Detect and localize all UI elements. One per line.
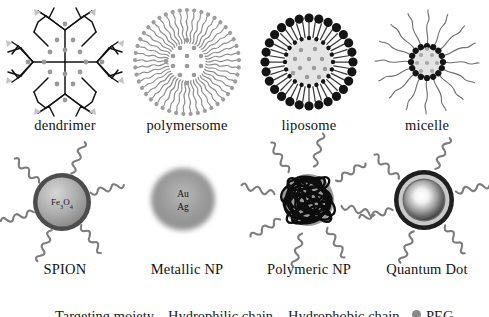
panel-spion: Fe3O4 SPION <box>4 150 126 277</box>
quantum-dot-core <box>404 180 444 220</box>
spion-icon: Fe3O4 <box>4 150 126 262</box>
panel-grid: dendrimer <box>0 0 489 317</box>
panel-dendrimer: dendrimer <box>4 6 126 133</box>
quantum-dot-icon <box>366 150 488 262</box>
polymersome-label: polymersome <box>126 118 248 133</box>
spion-label: SPION <box>4 262 126 277</box>
legend-swatch-peg <box>412 310 421 317</box>
polymeric-np-label: Polymeric NP <box>248 262 370 277</box>
cropped-legend-row: Targeting moiety Hydrophilic chain Hydro… <box>0 309 489 317</box>
dendrimer-icon <box>4 6 126 118</box>
legend-item-hydrophilic-chain: Hydrophilic chain <box>168 309 273 317</box>
legend-item-targeting-moiety: Targeting moiety <box>55 309 154 317</box>
quantum-dot-label: Quantum Dot <box>366 262 488 277</box>
liposome-lumen <box>286 39 332 85</box>
panel-micelle: micelle <box>366 6 488 133</box>
dendrimer-label: dendrimer <box>4 118 126 133</box>
panel-polymeric-np: Polymeric NP <box>248 150 370 277</box>
polymeric-np-icon <box>248 150 370 262</box>
polymersome-cargo-dots <box>164 38 204 86</box>
panel-quantum-dot: Quantum Dot <box>366 150 488 277</box>
metallic-np-label-ag: Ag <box>177 202 189 212</box>
micelle-label: micelle <box>366 118 488 133</box>
metallic-np-label-au: Au <box>177 189 189 199</box>
liposome-label: liposome <box>248 118 370 133</box>
liposome-icon <box>248 6 370 118</box>
panel-polymersome: polymersome <box>126 6 248 133</box>
micelle-icon <box>366 6 488 118</box>
polymersome-icon <box>126 6 248 118</box>
legend-item-peg: PEG <box>426 309 453 317</box>
legend-item-hydrophobic-chain: Hydrophobic chain <box>288 309 400 317</box>
metallic-np-label: Metallic NP <box>126 262 248 277</box>
panel-liposome: liposome <box>248 6 370 133</box>
polymersome-corona <box>133 8 241 116</box>
panel-metallic-np: Au Ag Metallic NP <box>126 150 248 277</box>
metallic-np-icon: Au Ag <box>126 150 248 262</box>
metallic-np-core <box>151 168 215 232</box>
nanoparticle-schematic-figure: dendrimer <box>0 0 489 317</box>
polymeric-np-matrix <box>278 171 337 228</box>
